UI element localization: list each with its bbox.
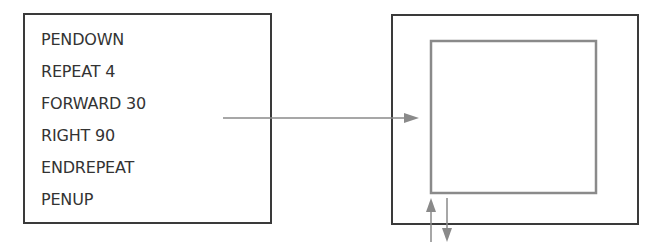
connector-arrow-icon xyxy=(223,113,419,123)
arrow-up-icon xyxy=(426,198,436,242)
drawn-square xyxy=(431,41,596,193)
diagram-overlay xyxy=(0,0,658,252)
arrow-down-icon xyxy=(442,198,452,242)
